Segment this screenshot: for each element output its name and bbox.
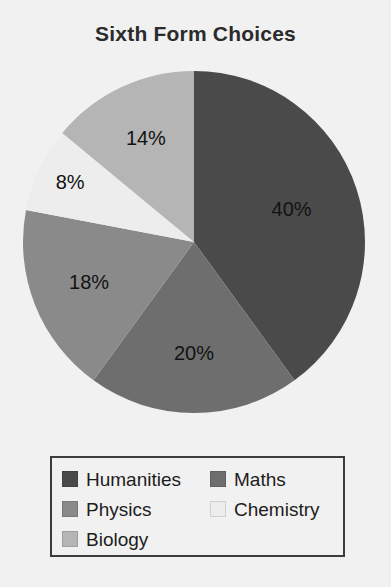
legend-item-label: Physics: [86, 500, 151, 519]
legend-grid: HumanitiesMathsPhysicsChemistryBiology: [52, 464, 343, 554]
legend-item-label: Biology: [86, 530, 148, 549]
legend-item[interactable]: Biology: [62, 524, 210, 554]
legend-item-label: Maths: [234, 470, 286, 489]
chart-title: Sixth Form Choices: [0, 22, 391, 46]
legend-item[interactable]: Physics: [62, 494, 210, 524]
pie-chart-plot-area: 40%20%18%8%14%: [23, 63, 365, 422]
pie-slice-value-label: 8%: [56, 171, 85, 193]
legend-color-swatch: [62, 531, 78, 547]
legend-item[interactable]: Humanities: [62, 464, 210, 494]
pie-slice-value-label: 18%: [69, 271, 109, 293]
pie-slice-value-label: 40%: [272, 198, 312, 220]
legend-item[interactable]: Maths: [210, 464, 357, 494]
legend-color-swatch: [62, 501, 78, 517]
legend-item[interactable]: Chemistry: [210, 494, 357, 524]
legend-item-label: Humanities: [86, 470, 181, 489]
pie-slice-value-label: 20%: [174, 342, 214, 364]
pie-chart-svg: 40%20%18%8%14%: [23, 63, 365, 422]
pie-slice-value-label: 14%: [126, 127, 166, 149]
legend-color-swatch: [210, 501, 226, 517]
legend-color-swatch: [210, 471, 226, 487]
legend-color-swatch: [62, 471, 78, 487]
legend-item-label: Chemistry: [234, 500, 320, 519]
chart-legend: HumanitiesMathsPhysicsChemistryBiology: [50, 456, 345, 557]
pie-chart-figure: Sixth Form Choices 40%20%18%8%14% Humani…: [0, 0, 391, 587]
